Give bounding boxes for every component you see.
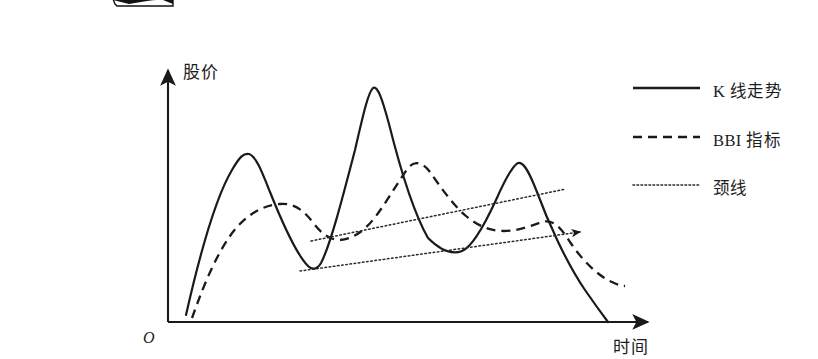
y-axis-label: 股价: [183, 58, 218, 83]
chart-axes: [168, 70, 648, 322]
legend-item-k-line-label: K 线走势: [713, 78, 782, 102]
figure-root: 股价 时间 O K 线走势 BBI 指标 颈线: [0, 0, 818, 359]
stock-pattern-chart: [0, 0, 818, 359]
neckline-upper: [311, 189, 566, 241]
bbi-line-path: [192, 163, 625, 318]
neckline-lower: [300, 232, 580, 271]
k-line-series: [186, 88, 608, 322]
legend-swatches: [633, 88, 700, 185]
legend-item-bbi-label: BBI 指标: [713, 127, 781, 151]
bbi-indicator-series: [192, 163, 625, 318]
origin-label: O: [143, 329, 155, 347]
x-axis-label: 时间: [613, 333, 648, 358]
legend-item-neckline-label: 颈线: [713, 175, 748, 199]
k-line-path: [186, 88, 608, 322]
